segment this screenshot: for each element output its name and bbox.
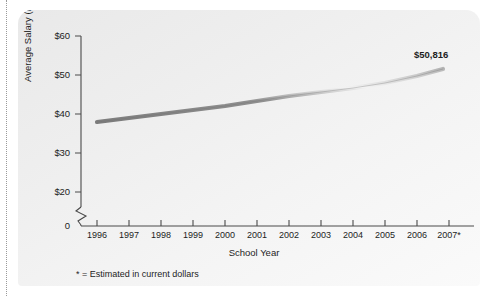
y-tick-label-0: 0: [26, 220, 70, 231]
x-axis-title: School Year: [194, 247, 314, 258]
chart-figure-panel: $60 $50 $40 $30 $20 0 1996 1997 1998 199…: [18, 10, 480, 286]
y-axis-break-symbol: [76, 207, 86, 225]
y-tick-label-40: $40: [26, 108, 70, 119]
salary-trend-line: [97, 69, 443, 122]
page-margin-rule: [6, 0, 7, 296]
chart-footnote: * = Estimated in current dollars: [76, 269, 199, 279]
y-axis-title: Average Salary (in thousands): [22, 10, 33, 82]
y-tick-label-20: $20: [26, 186, 70, 197]
plot-area: $60 $50 $40 $30 $20 0 1996 1997 1998 199…: [18, 10, 480, 286]
y-tick-label-30: $30: [26, 147, 70, 158]
chart-axes-and-series: [18, 10, 480, 286]
end-point-value-label: $50,816: [414, 49, 448, 60]
x-tick-label-2007: 2007*: [429, 230, 469, 240]
